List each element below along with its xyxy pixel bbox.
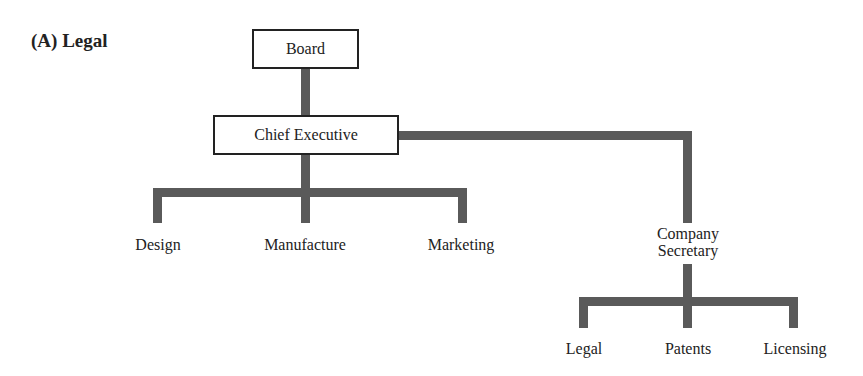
connector-secretary-down (683, 264, 692, 328)
leg-design (153, 188, 162, 223)
board-node: Board (252, 29, 359, 69)
leg-marketing (458, 188, 467, 223)
unit-patents: Patents (665, 340, 711, 357)
dept-manufacture: Manufacture (264, 236, 346, 253)
company-secretary-line2: Secretary (658, 242, 718, 259)
secretary-units-bar (579, 297, 798, 306)
unit-legal: Legal (566, 340, 602, 357)
unit-licensing: Licensing (763, 340, 826, 357)
departments-bar (153, 188, 467, 197)
dept-marketing: Marketing (428, 236, 495, 253)
company-secretary-line1: Company (657, 225, 719, 242)
connector-ce-secretary-h (399, 131, 692, 140)
connector-board-ce (301, 69, 310, 115)
connector-ce-secretary-v (683, 131, 692, 223)
figure-title: (A) Legal (31, 30, 108, 52)
chief-executive-node: Chief Executive (213, 115, 399, 155)
dept-design: Design (135, 236, 180, 253)
leg-legal (579, 297, 588, 328)
leg-licensing (789, 297, 798, 328)
